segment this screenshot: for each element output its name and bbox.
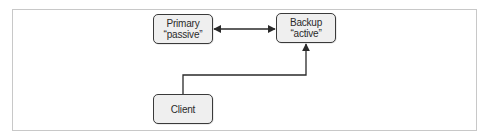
- node-primary: Primary “passive”: [153, 14, 213, 44]
- node-client-label: Client: [171, 104, 195, 115]
- node-primary-sublabel: “passive”: [164, 29, 203, 40]
- node-backup: Backup “active”: [276, 13, 336, 43]
- diagram-frame: [12, 9, 477, 131]
- node-backup-sublabel: “active”: [290, 28, 321, 39]
- node-backup-label: Backup: [290, 17, 322, 28]
- node-primary-label: Primary: [166, 18, 199, 29]
- node-client: Client: [153, 94, 213, 124]
